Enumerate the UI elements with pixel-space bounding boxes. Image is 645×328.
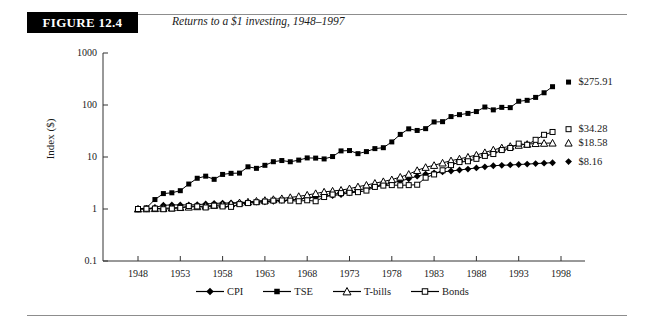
y-tick-label: 1000 xyxy=(77,48,97,58)
x-tick-label: 1993 xyxy=(499,268,539,279)
end-value-label-bonds: $34.28 xyxy=(579,123,608,134)
legend-marker-open-triangle-icon xyxy=(333,286,361,297)
legend-item-cpi[interactable]: CPI xyxy=(196,286,243,297)
chart-area: Index ($) 10001001010.1 1948195319581963… xyxy=(0,0,645,328)
legend-item-t-bills[interactable]: T-bills xyxy=(333,286,391,297)
legend-item-bonds[interactable]: Bonds xyxy=(411,286,469,297)
end-value-label-tse: $275.91 xyxy=(579,76,613,87)
y-axis-title: Index ($) xyxy=(44,84,56,194)
legend-label: Bonds xyxy=(442,286,469,297)
series-bonds xyxy=(136,129,556,211)
legend-marker-filled-diamond-icon xyxy=(196,286,224,297)
x-tick-label: 1998 xyxy=(541,268,581,279)
x-tick-label: 1968 xyxy=(287,268,327,279)
x-tick-label: 1978 xyxy=(372,268,412,279)
x-tick-label: 1948 xyxy=(118,268,158,279)
legend-marker-open-square-icon xyxy=(411,286,439,297)
end-value-label-t-bills: $18.58 xyxy=(579,137,608,148)
legend-item-tse[interactable]: TSE xyxy=(263,286,313,297)
x-tick-label: 1983 xyxy=(414,268,454,279)
x-tick-label: 1963 xyxy=(245,268,285,279)
end-label-marker-tse xyxy=(566,80,571,85)
figure-page: FIGURE 12.4 Returns to a $1 investing, 1… xyxy=(0,0,645,328)
y-tick-label: 100 xyxy=(82,100,97,110)
y-tick-label: 0.1 xyxy=(85,256,98,266)
end-label-marker-bonds xyxy=(566,127,571,132)
x-tick-label: 1953 xyxy=(160,268,200,279)
legend-marker-filled-square-icon xyxy=(263,286,291,297)
end-label-marker-cpi xyxy=(565,158,572,165)
end-label-marker-t-bills xyxy=(565,139,572,146)
y-tick-label: 1 xyxy=(92,204,97,214)
chart-legend: CPITSET-billsBonds xyxy=(196,286,469,297)
end-value-label-cpi: $8.16 xyxy=(579,156,603,167)
legend-label: CPI xyxy=(227,286,243,297)
legend-label: TSE xyxy=(294,286,313,297)
y-tick-label: 10 xyxy=(87,152,97,162)
x-tick-label: 1973 xyxy=(330,268,370,279)
legend-label: T-bills xyxy=(364,286,391,297)
x-tick-label: 1988 xyxy=(456,268,496,279)
x-tick-label: 1958 xyxy=(203,268,243,279)
